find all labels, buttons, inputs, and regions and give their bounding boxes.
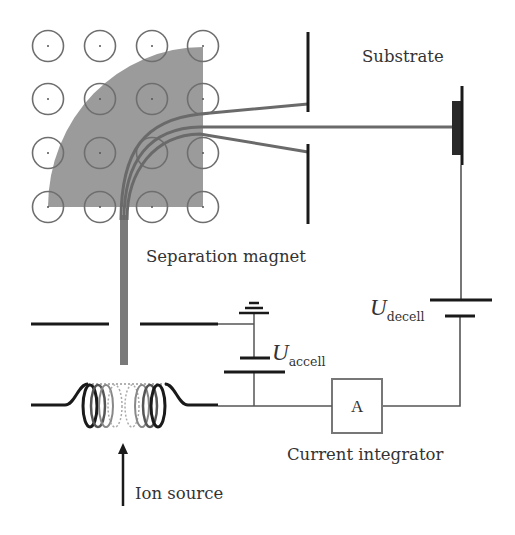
ion-source-arrow-icon xyxy=(118,443,128,506)
substrate-label: Substrate xyxy=(362,47,444,66)
current-integrator-ammeter: A xyxy=(332,379,382,433)
ion-source-coil xyxy=(31,384,218,427)
u-accel-label: Uaccell xyxy=(272,340,325,369)
u-decel-label: Udecell xyxy=(370,295,424,324)
current-integrator-label: Current integrator xyxy=(287,445,443,464)
ion-source-label: Ion source xyxy=(135,484,223,503)
ground-icon xyxy=(239,303,269,313)
substrate xyxy=(452,86,462,165)
decel-circuit-wire xyxy=(382,165,461,406)
separation-magnet-label: Separation magnet xyxy=(146,247,306,266)
ammeter-symbol: A xyxy=(351,397,364,416)
ion-implanter-diagram: Substrate Separation magnet Udecell A Cu… xyxy=(0,0,515,535)
decel-voltage-battery xyxy=(430,300,492,316)
separation-magnet xyxy=(48,47,203,207)
